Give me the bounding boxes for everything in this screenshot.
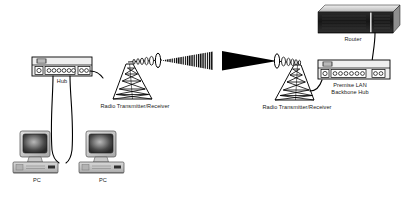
radio-tower-left: [113, 64, 152, 99]
label-pc-right: PC: [99, 177, 107, 183]
router-device: [318, 5, 400, 33]
label-hub-left: Hub: [57, 78, 67, 84]
label-radio-tower-left: Radio Transmitter/Receiver: [100, 103, 169, 109]
label-premise-lan: Premise LAN: [333, 82, 367, 88]
label-pc-left: PC: [33, 177, 41, 183]
hub-right-device: [318, 60, 390, 79]
label-radio-tower-right: Radio Transmitter/Receiver: [262, 104, 331, 110]
network-diagram-canvas: Hub Radio Transmitter/Receiver Radio Tra…: [0, 0, 409, 198]
cable-tower-to-hub-right: [310, 80, 322, 91]
radio-beam-solid: [222, 51, 277, 71]
label-backbone-hub: Backbone Hub: [331, 89, 368, 95]
label-router: Router: [344, 36, 361, 42]
radio-tower-right: [275, 65, 314, 100]
diagram-artwork: [0, 0, 409, 198]
cable-hub-to-pc-right: [66, 76, 73, 163]
pc-right-device: [79, 131, 124, 173]
hub-left-device: [32, 57, 92, 76]
cable-router-to-hub: [372, 33, 375, 62]
cable-hub-to-pc-left: [51, 76, 59, 163]
radio-beam-striped: [161, 52, 213, 71]
